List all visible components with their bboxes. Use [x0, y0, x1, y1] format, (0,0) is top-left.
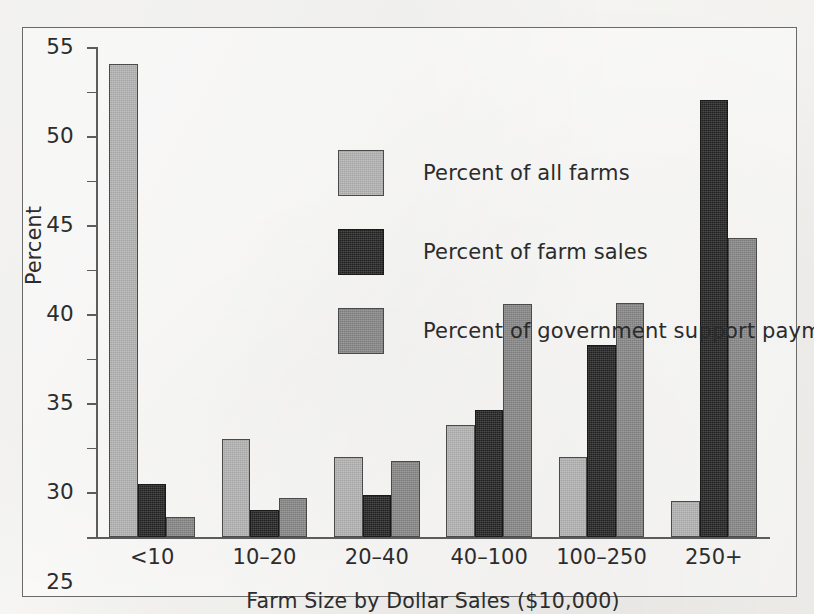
legend-swatch-farm-sales: [338, 229, 384, 275]
bar: [222, 439, 251, 537]
bar: [109, 64, 138, 537]
x-tick-label: <10: [96, 545, 208, 569]
legend-item-all-farms: Percent of all farms: [338, 150, 630, 196]
y-tick-label: 35: [46, 390, 74, 415]
legend-label-farm-sales: Percent of farm sales: [423, 240, 648, 264]
y-axis-title: Percent: [22, 206, 46, 285]
y-tick-mark: 35: [87, 225, 96, 227]
x-axis-baseline-segment: [545, 537, 657, 539]
x-axis-title: Farm Size by Dollar Sales ($10,000): [96, 589, 770, 613]
y-axis-line: [96, 47, 98, 537]
x-axis-baseline-segment: [433, 537, 545, 539]
bar: [391, 461, 420, 537]
bar: [138, 484, 167, 537]
y-tick-mark: 40: [87, 181, 96, 183]
x-tick-label: 250+: [658, 545, 770, 569]
x-axis-baseline-segment: [96, 537, 208, 539]
plot-area: 0510152025303540455055 Percent <1010–202…: [96, 47, 770, 537]
legend-item-farm-sales: Percent of farm sales: [338, 229, 648, 275]
y-tick-label: 55: [46, 34, 74, 59]
bar: [279, 498, 308, 537]
y-tick-label: 25: [46, 569, 74, 594]
x-axis-baseline-segment: [658, 537, 770, 539]
y-tick-label: 30: [46, 479, 74, 504]
bar: [446, 425, 475, 537]
x-tick-label: 20–40: [321, 545, 433, 569]
bar: [166, 517, 195, 537]
x-tick-label: 100–250: [545, 545, 657, 569]
bar: [587, 345, 616, 537]
legend-swatch-all-farms: [338, 150, 384, 196]
bar: [559, 457, 588, 537]
y-tick-mark: 10: [87, 448, 96, 450]
bar: [334, 457, 363, 537]
y-tick-mark: 0: [87, 537, 96, 539]
bar: [250, 510, 279, 537]
y-tick-mark: 50: [87, 92, 96, 94]
y-tick-mark: 30: [87, 270, 96, 272]
bar: [363, 495, 392, 537]
x-axis-baseline-segment: [208, 537, 320, 539]
x-tick-label: 40–100: [433, 545, 545, 569]
bar: [475, 410, 504, 537]
legend-swatch-government-support: [338, 308, 384, 354]
y-tick-mark: 25: [87, 314, 96, 316]
y-tick-mark: 20: [87, 359, 96, 361]
y-tick-mark: 55: [87, 47, 96, 49]
y-tick-label: 40: [46, 301, 74, 326]
chart-figure: 0510152025303540455055 Percent <1010–202…: [0, 0, 814, 614]
y-tick-mark: 5: [87, 492, 96, 494]
y-tick-label: 50: [46, 123, 74, 148]
y-tick-label: 45: [46, 212, 74, 237]
x-tick-label: 10–20: [208, 545, 320, 569]
legend-label-government-support: Percent of government support payments: [423, 319, 814, 343]
x-axis-baseline-segment: [321, 537, 433, 539]
legend-item-government-support: Percent of government support payments: [338, 308, 814, 354]
y-tick-mark: 45: [87, 136, 96, 138]
y-tick-mark: 15: [87, 403, 96, 405]
bar: [671, 501, 700, 537]
legend-label-all-farms: Percent of all farms: [423, 161, 630, 185]
bar: [728, 238, 757, 537]
